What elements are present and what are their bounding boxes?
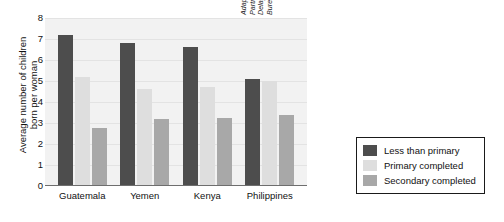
bar-yemen-series-2 <box>154 119 169 186</box>
y-tick-2: 2 <box>38 139 43 149</box>
legend-swatch-1 <box>363 160 377 171</box>
bar-philippines-series-0 <box>245 79 260 186</box>
bar-philippines-series-1 <box>262 81 277 186</box>
bar-group-kenya <box>176 18 239 186</box>
legend-item-1: Primary completed <box>363 158 476 173</box>
bar-yemen-series-0 <box>120 43 135 186</box>
x-label-guatemala: Guatemala <box>51 190 114 201</box>
y-tick-0: 0 <box>38 181 43 191</box>
x-axis-line <box>45 185 307 187</box>
bar-guatemala-series-1 <box>75 77 90 186</box>
bar-group-yemen <box>114 18 177 186</box>
legend-label-1: Primary completed <box>384 160 463 171</box>
bar-yemen-series-1 <box>137 89 152 186</box>
source-attribution: Adapted from E. Murphy, and D. Carr, Pow… <box>240 0 290 15</box>
chart-figure: Average number of children born per woma… <box>0 0 504 222</box>
x-axis-tick-labels: GuatemalaYemenKenyaPhilippines <box>45 190 307 201</box>
y-tick-1: 1 <box>38 160 43 170</box>
bar-group-philippines <box>239 18 302 186</box>
bar-kenya-series-1 <box>200 87 215 186</box>
bar-philippines-series-2 <box>279 115 294 186</box>
x-label-kenya: Kenya <box>176 190 239 201</box>
bar-group-guatemala <box>51 18 114 186</box>
y-tick-7: 7 <box>38 34 43 44</box>
plot-area <box>45 18 307 186</box>
y-axis-tick-labels: 876543210 <box>29 18 43 186</box>
bar-guatemala-series-0 <box>58 35 73 186</box>
y-tick-6: 6 <box>38 55 43 65</box>
y-tick-8: 8 <box>38 13 43 23</box>
legend-item-2: Secondary completed <box>363 173 476 188</box>
bar-groups <box>45 18 307 186</box>
y-tick-5: 5 <box>38 76 43 86</box>
chart-legend: Less than primaryPrimary completedSecond… <box>356 137 485 194</box>
plot-area-wrapper: 876543210 <box>45 18 307 186</box>
legend-label-0: Less than primary <box>384 145 460 156</box>
x-label-philippines: Philippines <box>239 190 302 201</box>
legend-swatch-0 <box>363 145 377 156</box>
bar-kenya-series-2 <box>217 118 232 186</box>
x-label-yemen: Yemen <box>114 190 177 201</box>
y-tick-3: 3 <box>38 118 43 128</box>
legend-swatch-2 <box>363 175 377 186</box>
legend-item-0: Less than primary <box>363 143 476 158</box>
legend-label-2: Secondary completed <box>384 175 476 186</box>
bar-guatemala-series-2 <box>92 128 107 186</box>
y-tick-4: 4 <box>38 97 43 107</box>
bar-kenya-series-0 <box>183 47 198 186</box>
